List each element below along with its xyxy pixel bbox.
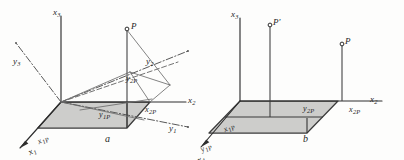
panel-a-axis-y3-endpoint <box>15 42 17 44</box>
diagram-canvas <box>0 0 404 160</box>
panel-a-label-y3: y3 <box>13 57 20 66</box>
panel-a-point-P-marker <box>125 27 129 31</box>
panel-b-label-point-P-prime: P' <box>273 18 281 27</box>
panel-a-label-x2: x2 <box>188 96 195 105</box>
panel-a-base-plane <box>38 102 150 128</box>
panel-a-label-x2p: x2P <box>145 106 156 114</box>
figure-root: x3 x2 x1 y3 y2 y1 x1P x2P y1P y2P P a x3… <box>0 0 404 160</box>
panel-a-label-y1: y1 <box>169 124 176 133</box>
panel-a-ray-origin-to-y2p <box>61 72 130 102</box>
panel-a-label-y1p: y1P <box>99 111 110 119</box>
panel-a-axis-y2 <box>61 51 188 102</box>
panel-a-axis-y2-endpoint <box>187 50 189 52</box>
panel-a-label-y2: y2 <box>146 57 153 66</box>
panel-b-label-x3: x3 <box>231 10 238 19</box>
panel-a-label-x3: x3 <box>53 8 60 17</box>
panel-b-point-P-prime-marker <box>268 23 272 27</box>
panel-a-ray-right-down <box>150 85 170 102</box>
panel-a-axis-y3 <box>16 43 61 102</box>
caption-a: a <box>105 134 110 144</box>
panel-b-label-y2p: y2P <box>303 105 314 113</box>
panel-b-label-x2: x2 <box>370 95 377 104</box>
panel-b-label-point-P: P <box>345 37 351 46</box>
panel-a-graphics <box>15 16 189 148</box>
panel-a-label-y2p: y2P <box>126 75 137 83</box>
panel-b-point-P-marker <box>340 42 344 46</box>
caption-b: b <box>303 134 308 144</box>
panel-a-label-point-P: P <box>131 22 137 31</box>
panel-b-label-x2p: x2P <box>349 106 360 114</box>
panel-a-axis-y1-endpoint <box>187 126 189 128</box>
